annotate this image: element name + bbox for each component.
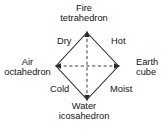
vertex-earth-element: Earth [136,57,168,67]
vertex-label-fire: Fire tetrahedron [0,3,168,24]
quality-label-dry: Dry [57,36,71,46]
quality-label-moist: Moist [110,84,132,94]
quality-label-hot: Hot [111,36,125,46]
vertex-fire-solid: tetrahedron [0,13,168,23]
vertex-air-solid: octahedron [1,67,54,77]
vertex-air-element: Air [1,57,54,67]
vertex-water-solid: icosahedron [0,111,168,121]
classical-elements-diagram: Fire tetrahedron Earth cube Water icosah… [0,0,168,136]
vertex-water-element: Water [0,101,168,111]
vertex-earth-solid: cube [136,67,168,77]
vertex-fire-element: Fire [0,3,168,13]
vertex-label-water: Water icosahedron [0,101,168,122]
quality-label-cold: Cold [50,84,69,94]
vertex-label-air: Air octahedron [1,57,54,78]
vertex-label-earth: Earth cube [136,57,168,78]
